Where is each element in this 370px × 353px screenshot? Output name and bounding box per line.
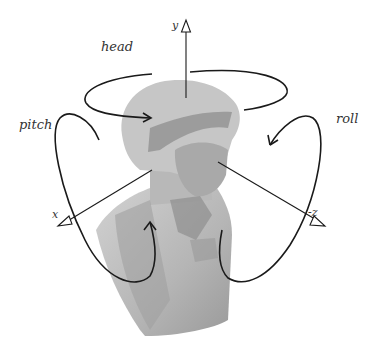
rotation-diagram: y head pitch x roll -z xyxy=(0,0,370,353)
y-axis-label: y xyxy=(171,19,179,32)
head-rotation-ellipse-front-right xyxy=(244,93,287,110)
neg-z-axis-line xyxy=(218,162,320,222)
roll-rotation-curve xyxy=(220,116,321,282)
x-axis-arrowhead xyxy=(58,216,72,226)
x-axis-label: x xyxy=(52,208,59,221)
head-rotation-label: head xyxy=(101,39,133,54)
neg-z-axis-label: -z xyxy=(308,206,318,219)
pitch-rotation-label: pitch xyxy=(19,117,52,132)
bust-sculpture xyxy=(96,80,240,336)
roll-rotation-label: roll xyxy=(336,111,358,126)
y-axis-arrowhead xyxy=(182,20,191,32)
